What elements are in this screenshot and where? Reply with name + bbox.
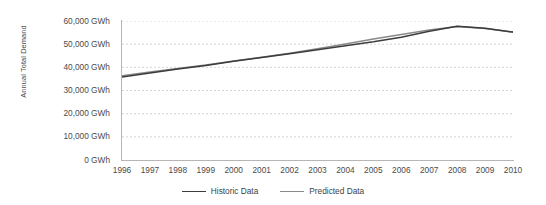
legend-line-icon (280, 191, 304, 192)
y-axis-tick-labels: 0 GWh10,000 GWh20,000 GWh30,000 GWh40,00… (32, 0, 110, 205)
plot-svg (122, 21, 513, 160)
series-line (122, 26, 513, 77)
legend-item[interactable]: Historic Data (182, 186, 259, 196)
y-tick-label: 40,000 GWh (32, 62, 110, 72)
y-tick-label: 0 GWh (32, 155, 110, 165)
legend-item[interactable]: Predicted Data (280, 186, 364, 196)
plot-area (122, 21, 513, 160)
chart-legend: Historic DataPredicted Data (0, 186, 546, 196)
y-tick-label: 50,000 GWh (32, 39, 110, 49)
x-axis-tick-labels: 1996199719981999200020012002200320042005… (122, 165, 513, 179)
line-chart: Annual Total Demand 0 GWh10,000 GWh20,00… (0, 0, 546, 205)
y-tick-label: 20,000 GWh (32, 108, 110, 118)
x-axis-line (121, 160, 514, 161)
y-axis-title: Annual Total Demand (19, 0, 28, 137)
legend-line-icon (182, 191, 206, 192)
legend-label: Historic Data (211, 186, 259, 196)
x-tick-label: 2010 (493, 165, 533, 175)
y-tick-label: 60,000 GWh (32, 16, 110, 26)
y-tick-label: 30,000 GWh (32, 85, 110, 95)
y-tick-label: 10,000 GWh (32, 131, 110, 141)
legend-label: Predicted Data (309, 186, 364, 196)
